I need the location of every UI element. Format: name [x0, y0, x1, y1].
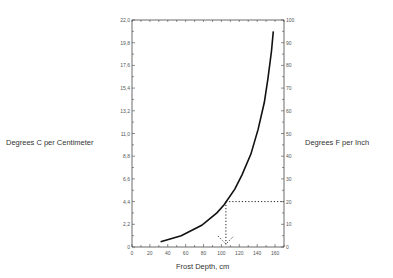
x-tick-label: 100	[215, 250, 227, 256]
y-axis-label-right: Degrees F per Inch	[305, 138, 369, 147]
y-tick-label-left: 19,8	[120, 40, 130, 46]
y-tick-label-left: 8,8	[123, 153, 130, 159]
x-tick-label: 80	[198, 250, 210, 256]
y-tick-label-right: 80	[286, 62, 292, 68]
y-tick-label-left: 2,2	[123, 221, 130, 227]
x-tick-label: 120	[233, 250, 245, 256]
y-tick-label-right: 20	[286, 199, 292, 205]
y-tick-label-right: 30	[286, 176, 292, 182]
dotted-guide	[218, 202, 284, 246]
x-tick-label: 0	[126, 250, 138, 256]
x-tick-label: 60	[180, 250, 192, 256]
y-tick-label-right: 40	[286, 153, 292, 159]
y-tick-label-left: 22,0	[120, 17, 130, 23]
y-tick-label-right: 0	[286, 244, 289, 250]
axes	[132, 20, 284, 247]
y-tick-label-left: 6,6	[123, 176, 130, 182]
y-axis-label-left: Degrees C per Centimeter	[6, 138, 94, 147]
x-tick-label: 20	[144, 250, 156, 256]
y-tick-label-right: 50	[286, 131, 292, 137]
data-curve	[161, 31, 274, 241]
x-tick-label: 160	[269, 250, 281, 256]
x-tick-label: 140	[251, 250, 263, 256]
y-tick-label-right: 60	[286, 108, 292, 114]
y-tick-label-left: 15,4	[120, 85, 130, 91]
y-tick-label-right: 70	[286, 85, 292, 91]
y-tick-label-left: 17,6	[120, 62, 130, 68]
y-tick-label-left: 11,0	[121, 131, 130, 137]
y-tick-label-right: 100	[286, 17, 294, 23]
y-tick-label-right: 90	[286, 40, 292, 46]
tick-marks	[132, 20, 284, 247]
x-axis-label: Frost Depth, cm	[176, 262, 229, 271]
y-tick-label-right: 10	[286, 221, 292, 227]
y-tick-label-left: 13,2	[120, 108, 130, 114]
y-tick-label-left: 4,4	[123, 199, 130, 205]
x-tick-label: 40	[162, 250, 174, 256]
